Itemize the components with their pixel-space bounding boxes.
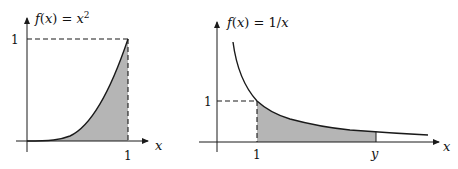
diagram-canvas: f(x) = x2 1 1 x f(x) = 1/x 1 1 y x: [0, 0, 458, 169]
x-axis-label-right: x: [443, 139, 451, 154]
left-plot: f(x) = x2 1 1 x: [11, 10, 163, 163]
y-tick-label-right: 1: [204, 95, 212, 109]
y-tick-label-left: 1: [11, 33, 19, 47]
x-tick-label-y-right: y: [370, 146, 379, 161]
function-label-left: f(x) = x2: [34, 10, 90, 26]
x-tick-label-one-right: 1: [253, 148, 261, 162]
x-axis-label-left: x: [155, 138, 163, 153]
shaded-area-right: [257, 101, 376, 142]
shaded-area-left: [27, 39, 128, 141]
function-label-right: f(x) = 1/x: [226, 15, 289, 30]
x-tick-label-left: 1: [124, 149, 132, 163]
right-plot: f(x) = 1/x 1 1 y x: [199, 15, 451, 162]
